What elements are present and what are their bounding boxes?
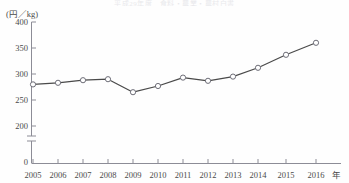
series-markers-price xyxy=(30,40,318,95)
line-chart-figure: 平成29年度 食料・農業・農村白書 (円／kg) 400 350 300 250… xyxy=(0,0,349,183)
data-point-2010 xyxy=(155,83,160,88)
data-point-2005 xyxy=(30,82,35,87)
data-point-2008 xyxy=(105,77,110,82)
data-point-2016 xyxy=(313,40,318,45)
data-point-2014 xyxy=(255,65,260,70)
data-point-2006 xyxy=(55,80,60,85)
data-point-2012 xyxy=(205,78,210,83)
data-point-2009 xyxy=(130,90,135,95)
data-point-2013 xyxy=(230,74,235,79)
data-point-2015 xyxy=(283,52,288,57)
data-point-2007 xyxy=(80,78,85,83)
plot-area xyxy=(0,0,349,183)
series-line-price xyxy=(33,43,316,92)
data-point-2011 xyxy=(180,75,185,80)
